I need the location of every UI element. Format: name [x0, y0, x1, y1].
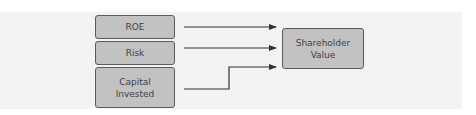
- connector-arrows: [0, 0, 476, 115]
- arrow-capital-invested-to-shareholder-value: [184, 67, 276, 89]
